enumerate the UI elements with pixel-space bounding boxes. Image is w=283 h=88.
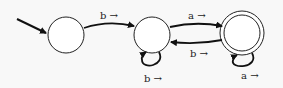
transition-q2-q1 [171, 40, 222, 43]
label-q1-q1: b → [144, 73, 163, 84]
state-q2-outer [220, 11, 264, 55]
state-q1 [134, 17, 170, 53]
state-diagram: b → a → b → b → a → [0, 0, 283, 88]
transition-q0-q1 [84, 23, 134, 28]
transition-q1-q1 [142, 52, 161, 66]
label-q1-q2: a → [188, 10, 206, 21]
state-q0 [48, 17, 84, 53]
label-q0-q1: b → [100, 10, 119, 21]
start-arrow [17, 19, 46, 33]
label-q2-q2: a → [241, 70, 259, 81]
label-q2-q1: b → [190, 48, 209, 59]
transition-q1-q2 [170, 24, 222, 27]
